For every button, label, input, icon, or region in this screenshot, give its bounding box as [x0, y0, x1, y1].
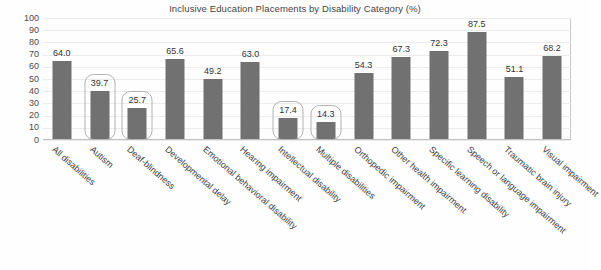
- y-axis-tick-60: 60: [13, 62, 39, 71]
- y-axis-tick-40: 40: [13, 87, 39, 96]
- y-axis-tick-0: 0: [13, 136, 39, 145]
- value-highlight-box: [84, 74, 115, 140]
- bar-slot[interactable]: 14.3: [307, 17, 345, 139]
- bar-value-label: 63.0: [242, 50, 260, 59]
- bar[interactable]: [505, 77, 524, 139]
- bar[interactable]: [543, 56, 562, 139]
- bar-slot[interactable]: 72.3: [420, 17, 458, 139]
- chart-title: Inclusive Education Placements by Disabi…: [0, 3, 590, 14]
- bar[interactable]: [354, 73, 373, 139]
- bar-slot[interactable]: 65.6: [156, 17, 194, 139]
- x-axis-tick-label: Developmental delay: [163, 145, 232, 207]
- bar-value-label: 51.1: [506, 65, 524, 74]
- bar[interactable]: [429, 51, 448, 139]
- x-axis-tick-label: Autism: [88, 145, 115, 170]
- y-axis-tick-10: 10: [13, 123, 39, 132]
- y-axis-tick-70: 70: [13, 50, 39, 59]
- bar-slot[interactable]: 67.3: [382, 17, 420, 139]
- bar-value-label: 87.5: [468, 20, 486, 29]
- y-axis-tick-50: 50: [13, 75, 39, 84]
- bar-value-label: 67.3: [393, 45, 411, 54]
- bar-slot[interactable]: 64.0: [43, 17, 81, 139]
- bar-slot[interactable]: 17.4: [269, 17, 307, 139]
- value-highlight-box: [273, 101, 304, 140]
- bar-value-label: 54.3: [355, 61, 373, 70]
- bar-slot[interactable]: 54.3: [345, 17, 383, 139]
- bar-slot[interactable]: 39.7: [81, 17, 119, 139]
- value-highlight-box: [122, 91, 153, 140]
- bar-value-label: 64.0: [53, 49, 71, 58]
- bar-value-label: 68.2: [543, 44, 561, 53]
- bar-slot[interactable]: 49.2: [194, 17, 232, 139]
- y-axis-tick-80: 80: [13, 38, 39, 47]
- plot-area: 64.039.725.765.649.263.017.414.354.367.3…: [43, 18, 571, 140]
- bar[interactable]: [165, 59, 184, 139]
- bar[interactable]: [52, 61, 71, 139]
- value-highlight-box: [310, 105, 341, 140]
- y-axis-tick-90: 90: [13, 26, 39, 35]
- bar-slot[interactable]: 68.2: [533, 17, 571, 139]
- bar-slot[interactable]: 87.5: [458, 17, 496, 139]
- x-axis-tick-label: Traumatic brain injury: [503, 145, 574, 208]
- y-axis-tick-20: 20: [13, 111, 39, 120]
- bar-value-label: 49.2: [204, 67, 222, 76]
- bar-slot[interactable]: 25.7: [118, 17, 156, 139]
- bar-slot[interactable]: 51.1: [496, 17, 534, 139]
- y-axis-tick-100: 100: [13, 14, 39, 23]
- bar-value-label: 65.6: [166, 47, 184, 56]
- gridline: [43, 140, 571, 141]
- y-axis-tick-30: 30: [13, 99, 39, 108]
- bar-value-label: 72.3: [430, 39, 448, 48]
- bar[interactable]: [203, 79, 222, 139]
- bar-slot[interactable]: 63.0: [232, 17, 270, 139]
- x-axis-tick-label: Other health impairment: [389, 145, 468, 215]
- bar[interactable]: [392, 57, 411, 139]
- x-axis-tick-label: Orthopedic impairment: [352, 145, 427, 212]
- bar[interactable]: [467, 32, 486, 139]
- bar[interactable]: [241, 62, 260, 139]
